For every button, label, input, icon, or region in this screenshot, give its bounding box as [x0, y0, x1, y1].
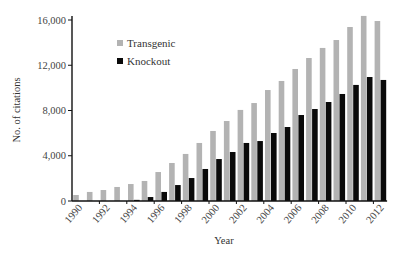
bar-transgenic-1993: [114, 187, 120, 201]
legend-label-transgenic: Transgenic: [127, 37, 176, 49]
bar-transgenic-1991: [87, 192, 93, 201]
bar-transgenic-2006: [292, 69, 298, 201]
x-tick-label: 2008: [309, 202, 331, 225]
x-tick-label: 2006: [282, 202, 304, 225]
bar-transgenic-1994: [128, 184, 134, 201]
x-axis-title: Year: [214, 235, 234, 246]
bar-knockout-2000: [216, 159, 222, 201]
bar-transgenic-1992: [101, 190, 107, 201]
bar-knockout-2007: [312, 109, 318, 201]
bar-transgenic-2012: [375, 21, 381, 201]
bar-transgenic-2002: [238, 110, 244, 201]
bar-transgenic-2007: [306, 58, 312, 201]
legend-swatch-transgenic: [117, 40, 123, 46]
bar-knockout-2003: [257, 141, 263, 201]
bar-transgenic-2010: [347, 27, 353, 201]
bar-transgenic-2001: [224, 121, 230, 201]
bar-knockout-2006: [298, 115, 304, 201]
bar-knockout-1997: [175, 185, 181, 201]
bar-transgenic-2008: [320, 48, 326, 201]
y-tick-label: 12,000: [37, 60, 66, 71]
y-axis-title: No. of citations: [11, 77, 22, 142]
bar-knockout-2001: [230, 152, 236, 201]
bar-transgenic-1997: [169, 163, 175, 201]
bar-knockout-1996: [161, 192, 167, 201]
x-tick-label: 1996: [145, 202, 167, 225]
x-tick-label: 1992: [90, 202, 112, 225]
y-tick-label: 4,000: [42, 150, 66, 161]
bar-knockout-2008: [326, 102, 332, 201]
bar-transgenic-1998: [183, 154, 189, 201]
bar-transgenic-2011: [361, 16, 367, 201]
bar-knockout-1998: [189, 178, 195, 201]
bar-knockout-2009: [340, 94, 346, 201]
x-tick-label: 1998: [172, 202, 194, 225]
legend-label-knockout: Knockout: [127, 55, 170, 67]
bar-knockout-2012: [381, 80, 387, 201]
legend-swatch-knockout: [117, 58, 123, 64]
y-tick-label: 8,000: [42, 105, 66, 116]
x-tick-label: 2004: [254, 202, 276, 226]
bar-knockout-2004: [271, 133, 277, 201]
bar-transgenic-1999: [197, 143, 203, 201]
bar-transgenic-2009: [334, 40, 340, 201]
bar-transgenic-2003: [251, 103, 257, 201]
bar-transgenic-2004: [265, 90, 271, 201]
bar-knockout-2002: [244, 143, 250, 201]
bar-transgenic-1990: [73, 195, 79, 201]
x-tick-label: 1994: [117, 202, 139, 226]
legend: TransgenicKnockout: [117, 37, 176, 67]
bar-knockout-2011: [367, 77, 373, 201]
bar-transgenic-2000: [210, 131, 216, 201]
bar-chart: 04,0008,00012,00016,00019901992199419961…: [0, 0, 405, 260]
x-tick-label: 2000: [199, 202, 221, 225]
y-tick-label: 16,000: [37, 15, 66, 26]
x-tick-label: 2012: [364, 202, 386, 225]
y-tick-label: 0: [61, 196, 66, 207]
bar-transgenic-2005: [279, 81, 285, 201]
bar-transgenic-1996: [155, 172, 161, 201]
x-tick-label: 2002: [227, 202, 249, 225]
bar-knockout-2010: [353, 85, 359, 201]
bar-knockout-2005: [285, 127, 291, 201]
bar-transgenic-1995: [142, 181, 148, 201]
x-tick-label: 2010: [336, 202, 358, 225]
bar-knockout-1999: [203, 169, 209, 201]
